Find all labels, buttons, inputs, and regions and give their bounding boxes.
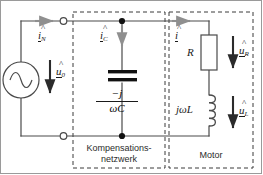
label-line-current: ^ iN	[38, 30, 46, 43]
terminal-bottom[interactable]	[60, 133, 67, 140]
capacitor-plate-bottom	[108, 78, 137, 81]
junction-dot-bottom	[119, 133, 125, 139]
circuit-diagram-canvas: ^ iN ^ u0 ^ iC ^ i −j ωC R ^ uR jωL ^ uL…	[0, 0, 263, 175]
label-resistor-voltage: ^ uR	[239, 45, 249, 58]
label-source-voltage: ^ u0	[56, 66, 65, 79]
hat-accent-uL: ^	[242, 99, 246, 108]
hat-accent-iC: ^	[103, 24, 107, 33]
impedance-numerator: −j	[96, 88, 138, 100]
inductor-symbol	[209, 95, 215, 126]
label-inductor-voltage-sub: L	[245, 110, 249, 118]
label-capacitor-current: ^ iC	[100, 30, 108, 43]
junction-dot-top	[119, 18, 125, 24]
resistor-symbol	[201, 35, 217, 70]
terminal-top[interactable]	[60, 18, 67, 25]
hat-accent-uR: ^	[242, 39, 246, 48]
label-line-current-sub: N	[41, 35, 46, 43]
label-motor-current: ^ i	[175, 30, 178, 41]
label-source-voltage-sub: 0	[62, 71, 66, 79]
label-resistor: R	[187, 47, 194, 58]
label-capacitor-current-sub: C	[103, 35, 108, 43]
hat-accent-iN: ^	[41, 24, 45, 33]
capacitor-plate-top	[108, 70, 137, 73]
label-inductor: jωL	[176, 104, 193, 115]
compensation-network-caption: Kompensations- netzwerk	[73, 143, 165, 166]
motor-caption-line1: Motor	[199, 150, 222, 160]
impedance-denominator: ωC	[96, 103, 138, 115]
motor-caption: Motor	[169, 150, 253, 161]
compensation-caption-line1: Kompensations-	[86, 143, 151, 153]
hat-accent-u0: ^	[59, 60, 63, 69]
label-resistor-voltage-sub: R	[245, 50, 249, 58]
label-inductor-voltage: ^ uL	[239, 105, 248, 118]
label-capacitor-impedance: −j ωC	[96, 88, 138, 114]
hat-accent-i: ^	[177, 24, 181, 33]
compensation-caption-line2: netzwerk	[101, 154, 137, 164]
